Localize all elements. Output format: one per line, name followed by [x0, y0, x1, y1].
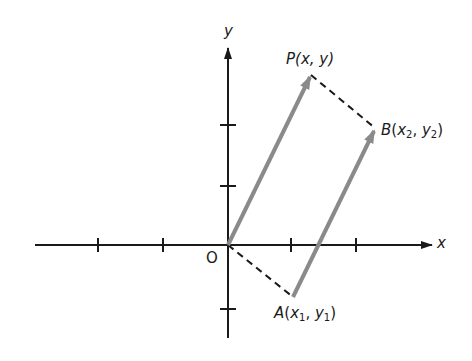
point-B-y: y: [422, 121, 431, 139]
point-B-y-sub: 2: [431, 129, 437, 140]
y-axis-label: y: [224, 24, 233, 39]
point-A-y-sub: 1: [324, 312, 330, 323]
x-axis-label: x: [437, 236, 446, 251]
point-P-coords: (x, y): [295, 50, 334, 68]
point-B-x-sub: 2: [406, 129, 412, 140]
dashed-segment-O-A: [228, 245, 293, 297]
point-A-y: y: [315, 304, 324, 322]
point-B-name: B: [381, 121, 391, 139]
vector-O-P: [228, 77, 310, 245]
point-A-x: x: [290, 304, 299, 322]
point-A-name: A: [274, 304, 284, 322]
point-B-label: B(x2, y2): [381, 123, 443, 140]
point-A-x-sub: 1: [299, 312, 305, 323]
vector-diagram: y x O P(x, y) B(x2, y2) A(x1, y1): [0, 0, 472, 361]
diagram-svg: [0, 0, 472, 361]
point-B-x: x: [397, 121, 406, 139]
point-P-name: P: [286, 50, 295, 68]
dashed-segment-P-B: [311, 75, 375, 128]
point-P-label: P(x, y): [286, 52, 334, 67]
point-A-label: A(x1, y1): [274, 306, 336, 323]
vector-A-B: [293, 131, 374, 297]
origin-label: O: [206, 251, 218, 266]
